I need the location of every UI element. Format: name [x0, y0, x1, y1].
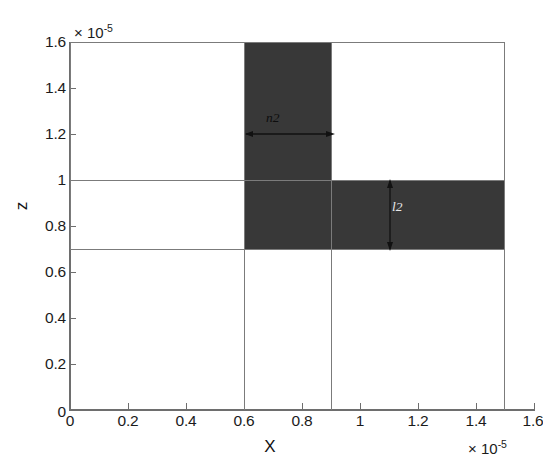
n2-double-arrow-icon — [244, 127, 336, 141]
outline-bottom-z0.6 — [70, 249, 505, 250]
x-ticklabel-1: 1 — [356, 412, 364, 430]
n2-annotation-label: n2 — [266, 110, 280, 126]
outline-vline-x0.6 — [244, 42, 245, 410]
x-ticklabel-0.6: 0.6 — [234, 412, 255, 430]
y-tick-0 — [70, 410, 76, 411]
x-ticklabel-0.4: 0.4 — [176, 412, 197, 430]
outline-top-z1.5 — [70, 42, 505, 43]
x-tick-1.6 — [534, 403, 535, 409]
outline-vline-x0.9 — [331, 42, 332, 410]
x-ticklabel-1.2: 1.2 — [408, 412, 429, 430]
x-axis-title: X — [0, 437, 540, 457]
y-ticklabel-0.2: 0.2 — [45, 355, 66, 373]
l2-annotation-label: l2 — [392, 199, 403, 215]
x-ticklabel-1.4: 1.4 — [466, 412, 487, 430]
y-ticklabel-0.4: 0.4 — [45, 309, 66, 327]
y-ticklabel-0: 0 — [58, 403, 66, 421]
l2-double-arrow-icon — [383, 178, 397, 252]
shaded-region-vertical-arm — [244, 42, 331, 249]
x-ticklabel-1.6: 1.6 — [523, 412, 543, 430]
y-ticklabel-1.2: 1.2 — [45, 125, 66, 143]
y-axis-exponent: × 10-5 — [74, 22, 113, 41]
outline-mid-z0.9 — [70, 180, 505, 181]
y-ticklabel-1.4: 1.4 — [45, 79, 66, 97]
y-exponent-power: -5 — [104, 22, 113, 34]
x-ticklabel-0.2: 0.2 — [118, 412, 139, 430]
outline-left-x0 — [70, 42, 71, 250]
x-ticklabel-0.8: 0.8 — [292, 412, 313, 430]
plot-area: n2 l2 — [70, 42, 534, 410]
y-ticklabel-1.6: 1.6 — [45, 33, 66, 51]
outline-vline-x1.5 — [504, 42, 505, 410]
shaded-region-horizontal-arm — [331, 180, 505, 249]
y-ticklabel-1: 1 — [58, 171, 66, 189]
x-ticklabel-0: 0 — [66, 412, 74, 430]
y-ticklabel-0.8: 0.8 — [45, 217, 66, 235]
y-exponent-prefix: × 10 — [74, 24, 104, 41]
y-axis-title: z — [12, 176, 32, 236]
y-ticklabel-0.6: 0.6 — [45, 263, 66, 281]
